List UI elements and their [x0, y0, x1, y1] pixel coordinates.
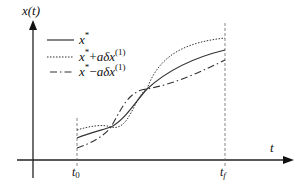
x-axis-arrow-icon [283, 156, 294, 164]
legend-item-solid: x* [47, 30, 90, 47]
tick-tf: tf [220, 165, 227, 180]
legend: x* x*+aδx(1) x*−aδx(1) [47, 30, 125, 79]
x-axis-label: t [270, 140, 274, 155]
variation-diagram: x(t) t t0 tf x* x*+aδx(1) x*−aδx(1) [0, 0, 304, 189]
legend-item-dash-dot: x*−aδx(1) [50, 62, 125, 79]
y-axis-arrow-icon [29, 20, 37, 30]
tick-t0: t0 [72, 165, 80, 180]
y-axis-label: x(t) [21, 3, 40, 18]
svg-text:x*−aδx(1): x*−aδx(1) [78, 62, 125, 79]
svg-text:x*: x* [78, 30, 90, 47]
